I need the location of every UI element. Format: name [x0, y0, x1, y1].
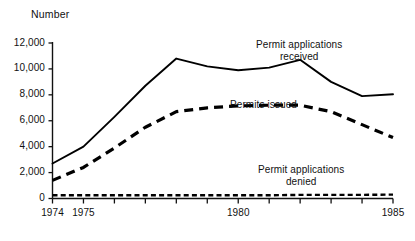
annotation-issued-line1: Permits issued	[230, 99, 297, 111]
annotation-received-line1: Permit applications	[256, 39, 342, 51]
x-tick-marks	[53, 199, 394, 204]
annotation-received-line2: received	[256, 51, 342, 63]
series-line-permit-applications-received	[53, 59, 394, 164]
line-chart: Number 12,000 10,000 8,000 6,000 4,000 2…	[0, 0, 415, 241]
series-line-permit-applications-denied	[53, 195, 394, 196]
annotation-permits-issued: Permits issued	[230, 99, 297, 111]
annotation-permit-applications-denied: Permit applications denied	[258, 164, 344, 187]
plot-area	[0, 0, 415, 241]
annotation-denied-line2: denied	[258, 176, 344, 188]
annotation-permit-applications-received: Permit applications received	[256, 39, 342, 62]
annotation-denied-line1: Permit applications	[258, 164, 344, 176]
